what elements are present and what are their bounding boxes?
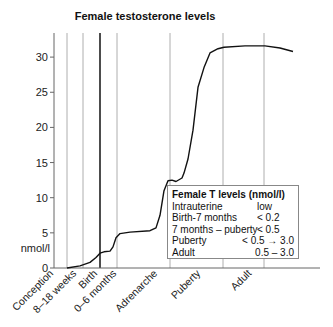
legend-row: Puberty< 0.5 → 3.0	[172, 235, 294, 247]
x-stage-label: Adult	[228, 267, 253, 292]
x-stage-label: Adrenarche	[113, 267, 160, 314]
legend-row: Birth-7 months< 0.2	[172, 212, 294, 224]
y-tick-label: 25	[36, 86, 48, 98]
legend-row: Intrauterinelow	[172, 201, 294, 213]
x-stage-label: Puberty	[168, 266, 203, 301]
y-tick-label: 30	[36, 51, 48, 63]
legend-title: Female T levels (nmol/l)	[172, 189, 294, 201]
legend-row: 7 months – puberty< 0.5	[172, 224, 294, 236]
y-tick-label: 10	[36, 192, 48, 204]
legend-box: Female T levels (nmol/l) Intrauterinelow…	[167, 185, 299, 259]
y-tick-label: 5	[42, 227, 48, 239]
y-tick-label: 20	[36, 121, 48, 133]
legend-row: Adult0.5 – 3.0	[172, 247, 294, 259]
y-axis-label: nmol/l	[21, 242, 50, 254]
chart-title: Female testosterone levels	[0, 10, 290, 22]
chart-plot: 051015202530nmol/lConception8–18 weeksBi…	[0, 0, 333, 327]
y-tick-label: 15	[36, 157, 48, 169]
